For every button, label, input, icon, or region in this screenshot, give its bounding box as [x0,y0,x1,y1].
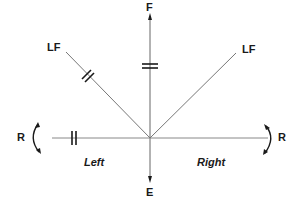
label-rotation-right: R [278,132,286,143]
rotation-arrow-right-icon [263,124,271,155]
diagonal-right [150,53,236,138]
label-rotation-left: R [17,132,25,143]
label-lateral-flexion-right: LF [242,44,255,55]
arrow-down-icon [148,176,152,183]
restriction-mark-diagonal [82,70,94,82]
label-side-left: Left [84,157,104,168]
diagonal-left [66,52,150,138]
label-extension: E [146,187,153,198]
arrow-up-icon [148,13,152,20]
label-forward: F [146,2,153,13]
rotation-arrow-left-icon [33,122,41,154]
label-side-right: Right [197,157,225,168]
label-lateral-flexion-left: LF [47,42,60,53]
movement-diagram [0,0,296,205]
